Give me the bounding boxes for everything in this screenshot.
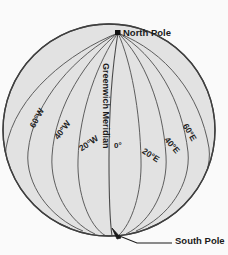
globe-figure: North Pole South Pole Greenwich Meridian… bbox=[0, 0, 228, 255]
north-pole-marker bbox=[115, 30, 121, 35]
greenwich-meridian-label: Greenwich Meridian bbox=[101, 63, 110, 149]
south-pole-label: South Pole bbox=[175, 236, 225, 246]
south-pole-leader-line bbox=[117, 235, 172, 243]
north-pole-label: North Pole bbox=[123, 28, 171, 38]
zero-degree-label: 0° bbox=[114, 142, 122, 150]
